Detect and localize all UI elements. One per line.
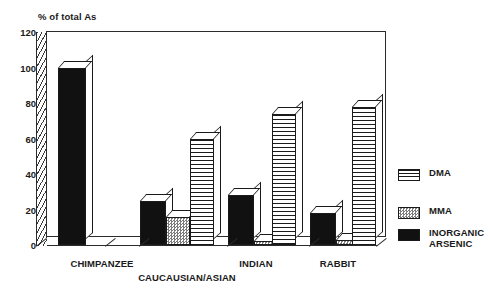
- legend-label: DMA: [429, 168, 451, 179]
- legend-item: MMA: [398, 206, 452, 219]
- legend-item: DMA: [398, 168, 451, 181]
- x-axis-group-label: CAUCAUSIAN/ASIAN: [138, 272, 236, 283]
- legend-label: INORGANIC ARSENIC: [429, 228, 484, 249]
- x-axis-group-label: INDIAN: [239, 258, 272, 269]
- legend-label: MMA: [429, 206, 452, 217]
- bar-chart: % of total As 020406080100120 CHIMPANZEE…: [0, 0, 490, 289]
- x-axis-group-label: RABBIT: [320, 258, 357, 269]
- legend-swatch: [398, 229, 420, 241]
- legend-swatch: [398, 207, 420, 219]
- legend-swatch: [398, 169, 420, 181]
- legend-item: INORGANIC ARSENIC: [398, 228, 484, 249]
- x-axis-group-label: CHIMPANZEE: [70, 258, 133, 269]
